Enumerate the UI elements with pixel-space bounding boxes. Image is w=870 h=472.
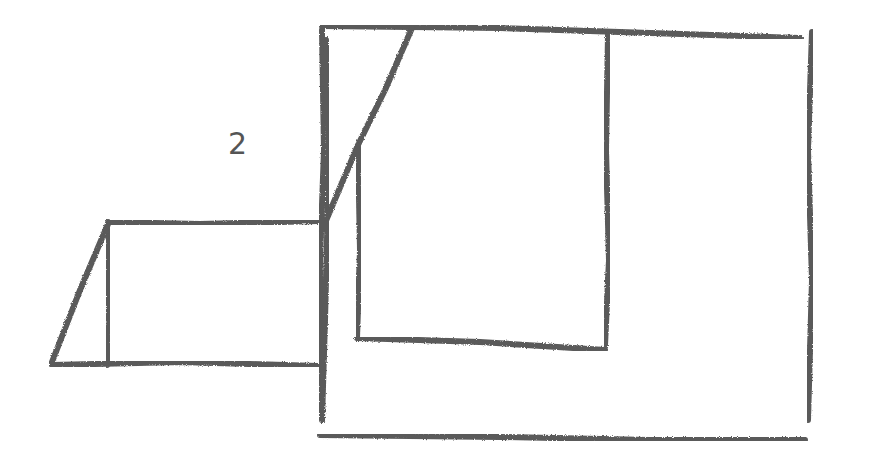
large-rectangle [320, 26, 812, 440]
inner-rectangle [357, 35, 609, 350]
label-two: 2 [228, 126, 247, 161]
sketch-canvas [0, 0, 870, 472]
small-triangle [52, 224, 108, 362]
diagonal-line [322, 28, 412, 230]
small-rectangle [52, 30, 324, 420]
